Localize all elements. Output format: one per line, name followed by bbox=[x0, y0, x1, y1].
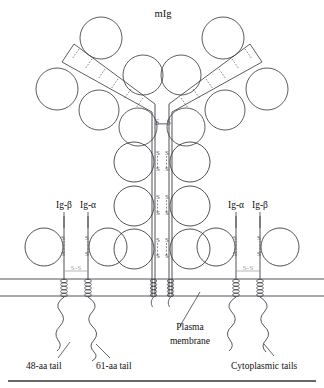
figure-title-mig: mIg bbox=[140, 8, 186, 20]
mig-fab-arm-right bbox=[161, 17, 288, 146]
label-plasma-membrane-line1: Plasma bbox=[155, 322, 225, 333]
sulfur-label-7: S bbox=[165, 194, 169, 202]
sulfur-label-2: S bbox=[156, 166, 160, 174]
sulfur-label-19: S bbox=[257, 235, 261, 243]
sulfur-label-11: S bbox=[165, 237, 169, 245]
mig-fc-stem bbox=[114, 104, 210, 296]
sulfur-label-4: S bbox=[165, 166, 169, 174]
plasma-membrane-bilayer bbox=[0, 279, 324, 296]
sulfur-label-20: S bbox=[257, 251, 261, 259]
bcr-diagram-figure: mIg Ig-β Ig-α Ig-α Ig-β S—S S S S S S S … bbox=[0, 0, 324, 388]
sulfur-label-6: S bbox=[156, 210, 160, 218]
heterodimer-bond-label-right: S–S bbox=[234, 264, 262, 271]
mig-transmembrane-segments bbox=[150, 279, 173, 307]
mig-fab-arm-left bbox=[36, 17, 163, 146]
sulfur-label-5: S bbox=[156, 194, 160, 202]
sulfur-label-13: S bbox=[61, 235, 65, 243]
sulfur-label-8: S bbox=[165, 210, 169, 218]
label-plasma-membrane-line2: membrane bbox=[149, 336, 231, 347]
cytoplasmic-tail-61aa bbox=[88, 297, 97, 361]
cytoplasmic-tail-48aa bbox=[56, 297, 64, 351]
transmembrane-right bbox=[233, 279, 264, 296]
label-61aa-tail: 61-aa tail bbox=[96, 361, 132, 372]
sulfur-label-10: S bbox=[156, 253, 160, 261]
heterodimer-bond-label-left: S–S bbox=[62, 264, 90, 271]
label-cytoplasmic-tails: Cytoplasmic tails bbox=[231, 361, 297, 372]
cytoplasmic-tail-right-beta bbox=[260, 297, 269, 352]
transmembrane-left bbox=[61, 279, 92, 296]
hinge-bond-label: S—S bbox=[155, 119, 171, 127]
label-48aa-tail: 48-aa tail bbox=[26, 361, 62, 372]
sulfur-label-15: S bbox=[85, 235, 89, 243]
sulfur-label-9: S bbox=[156, 237, 160, 245]
sulfur-label-16: S bbox=[85, 251, 89, 259]
sulfur-label-18: S bbox=[233, 251, 237, 259]
sulfur-label-17: S bbox=[233, 235, 237, 243]
sulfur-label-3: S bbox=[165, 150, 169, 158]
sulfur-label-12: S bbox=[165, 253, 169, 261]
sulfur-label-14: S bbox=[61, 251, 65, 259]
sulfur-label-1: S bbox=[156, 150, 160, 158]
label-ig-beta-right: Ig-β bbox=[240, 200, 280, 211]
label-ig-alpha-left: Ig-α bbox=[68, 200, 108, 211]
